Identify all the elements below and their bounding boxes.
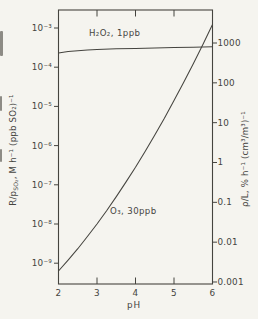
left-tick-label: 10⁻⁴: [32, 62, 52, 72]
scan-artifact: [0, 31, 3, 56]
x-tick-label: 4: [133, 288, 139, 298]
x-tick-label: 6: [210, 288, 216, 298]
o3-curve: [59, 25, 213, 272]
series-label-o3: O₃, 30ppb: [110, 206, 157, 216]
right-tick-label: 100: [218, 78, 236, 88]
left-tick-label: 10⁻⁷: [32, 180, 52, 190]
left-axis-title-post: , M h⁻¹ (ppb SO₂)⁻¹: [8, 94, 18, 179]
left-tick-label: 10⁻⁹: [32, 258, 52, 268]
left-tick-label: 10⁻⁵: [32, 101, 52, 111]
scan-artifact: [0, 149, 2, 162]
x-tick-label: 5: [171, 288, 177, 298]
figure: 2345610⁻³10⁻⁴10⁻⁵10⁻⁶10⁻⁷10⁻⁸10⁻⁹1000100…: [0, 0, 258, 319]
left-tick-label: 10⁻⁸: [32, 219, 52, 229]
left-axis-title: R/pSO₂, M h⁻¹ (ppb SO₂)⁻¹: [8, 94, 19, 206]
plot-area: 2345610⁻³10⁻⁴10⁻⁵10⁻⁶10⁻⁷10⁻⁸10⁻⁹1000100…: [0, 0, 258, 319]
left-tick-label: 10⁻⁶: [32, 141, 52, 151]
x-tick-label: 3: [94, 288, 100, 298]
x-tick-label: 2: [56, 288, 62, 298]
right-tick-label: 10: [218, 118, 230, 128]
left-axis-title-sub: SO₂: [12, 179, 19, 191]
right-tick-label: 0.01: [218, 237, 238, 247]
plot-frame: [59, 10, 213, 284]
scan-artifact: [0, 96, 2, 111]
right-tick-label: 0.001: [218, 277, 244, 287]
series-label-h2o2: H₂O₂, 1ppb: [89, 28, 140, 38]
left-tick-label: 10⁻³: [32, 23, 52, 33]
right-tick-label: 0.1: [218, 197, 233, 207]
right-axis-title: ρ/L, % h⁻¹ (cm³/m³)⁻¹: [240, 111, 250, 207]
right-tick-label: 1: [218, 157, 224, 167]
left-axis-title-pre: R/p: [8, 191, 18, 206]
right-tick-label: 1000: [218, 38, 241, 48]
x-axis-title: pH: [127, 300, 141, 310]
h2o2-curve: [59, 47, 213, 53]
